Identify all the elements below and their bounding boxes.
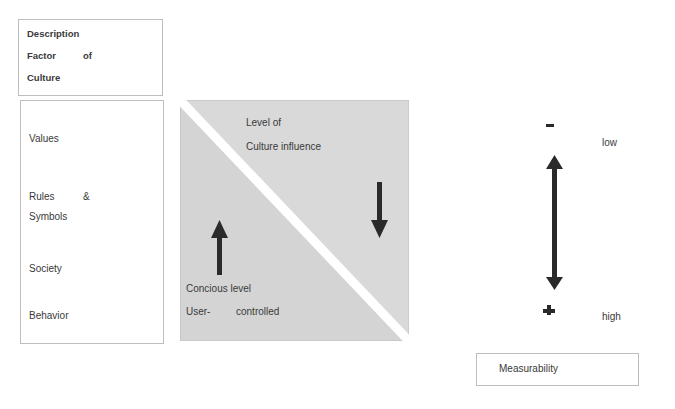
plus-icon bbox=[543, 305, 555, 315]
factors-box: Values Rules & Symbols Society Behavior bbox=[20, 100, 164, 344]
double-arrow-icon bbox=[546, 155, 563, 290]
factor-society: Society bbox=[29, 263, 62, 274]
user-label: User- bbox=[186, 306, 210, 317]
description-box: Description Factor of Culture bbox=[18, 19, 163, 96]
measurability-box: Measurability bbox=[476, 353, 639, 386]
measurability-label: Measurability bbox=[499, 363, 558, 374]
level-of-label: Level of bbox=[246, 117, 281, 128]
minus-icon bbox=[546, 124, 554, 127]
culture-influence-label: Culture influence bbox=[246, 141, 321, 152]
concious-level-label: Concious level bbox=[186, 283, 251, 294]
description-label: Description bbox=[27, 28, 79, 39]
factor-behavior: Behavior bbox=[29, 310, 68, 321]
factor-symbols: Symbols bbox=[29, 211, 67, 222]
measurability-scale bbox=[530, 115, 570, 315]
of-label: of bbox=[83, 50, 92, 61]
low-label: low bbox=[602, 137, 617, 148]
factor-ampersand: & bbox=[83, 191, 90, 202]
culture-label: Culture bbox=[27, 72, 60, 83]
controlled-label: controlled bbox=[236, 306, 279, 317]
factor-rules: Rules bbox=[29, 191, 55, 202]
high-label: high bbox=[602, 311, 621, 322]
factor-values: Values bbox=[29, 133, 59, 144]
factor-label: Factor bbox=[27, 50, 56, 61]
culture-influence-diagram bbox=[180, 100, 409, 341]
